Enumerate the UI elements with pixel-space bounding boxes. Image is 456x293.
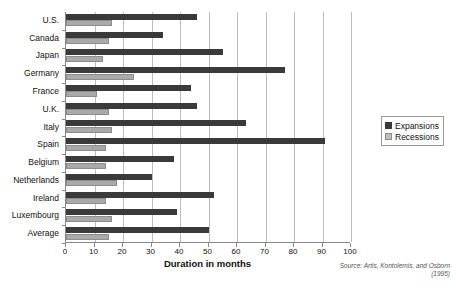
plot-area	[65, 12, 350, 243]
x-tick-label: 30	[146, 247, 155, 256]
x-tick-label: 40	[175, 247, 184, 256]
bar-row	[66, 207, 350, 225]
bar-expansions-belgium	[66, 156, 174, 162]
bar-recessions-canada	[66, 38, 109, 44]
bar-row	[66, 225, 350, 243]
bar-recessions-netherlands	[66, 180, 117, 186]
bar-recessions-us	[66, 20, 112, 26]
bar-recessions-uk	[66, 109, 109, 115]
category-tick	[62, 119, 65, 120]
category-label: Germany	[24, 69, 59, 78]
source-note: Source: Artis, Kontolemis, and Osborn (1…	[330, 262, 450, 278]
category-label: France	[33, 87, 59, 96]
bar-row	[66, 101, 350, 119]
legend-label-expansions: Expansions	[395, 121, 439, 131]
x-tick-label: 0	[63, 247, 67, 256]
bar-expansions-luxembourg	[66, 209, 177, 215]
category-label: Ireland	[33, 194, 59, 203]
recessions-swatch-icon	[385, 133, 392, 140]
bar-recessions-average	[66, 234, 109, 240]
bar-row	[66, 190, 350, 208]
category-label: Italy	[43, 123, 59, 132]
category-tick	[62, 207, 65, 208]
x-tick-label: 50	[203, 247, 212, 256]
bar-recessions-germany	[66, 74, 134, 80]
x-axis-title: Duration in months	[65, 258, 350, 269]
bar-recessions-luxembourg	[66, 216, 112, 222]
bar-row	[66, 48, 350, 66]
category-label: Canada	[29, 34, 59, 43]
bar-expansions-netherlands	[66, 174, 152, 180]
category-tick	[62, 136, 65, 137]
category-label: Netherlands	[13, 176, 59, 185]
category-tick	[62, 65, 65, 66]
bar-expansions-canada	[66, 32, 163, 38]
bar-chart: U.S.CanadaJapanGermanyFranceU.K.ItalySpa…	[0, 0, 456, 293]
bar-expansions-us	[66, 14, 197, 20]
category-label: Luxembourg	[12, 211, 59, 220]
category-label: Belgium	[28, 158, 59, 167]
bar-expansions-japan	[66, 49, 223, 55]
category-tick	[62, 172, 65, 173]
bar-expansions-spain	[66, 138, 325, 144]
category-label: Spain	[37, 140, 59, 149]
bar-row	[66, 154, 350, 172]
x-axis-ticks: 0102030405060708090100	[0, 243, 456, 255]
bar-expansions-uk	[66, 103, 197, 109]
category-label: U.K.	[42, 105, 59, 114]
category-tick	[62, 154, 65, 155]
bar-expansions-ireland	[66, 192, 214, 198]
category-tick	[62, 243, 65, 244]
bar-recessions-ireland	[66, 198, 106, 204]
x-tick-label: 60	[232, 247, 241, 256]
bar-recessions-spain	[66, 145, 106, 151]
category-label: Japan	[36, 51, 59, 60]
x-tick-label: 80	[289, 247, 298, 256]
x-tick-label: 10	[89, 247, 98, 256]
bar-expansions-germany	[66, 67, 285, 73]
expansions-swatch-icon	[385, 122, 392, 129]
x-tick-label: 100	[343, 247, 356, 256]
bar-row	[66, 172, 350, 190]
bar-expansions-italy	[66, 120, 246, 126]
category-label: U.S.	[42, 16, 59, 25]
x-tick-label: 90	[317, 247, 326, 256]
bar-recessions-belgium	[66, 163, 106, 169]
bar-row	[66, 12, 350, 30]
bar-row	[66, 83, 350, 101]
category-tick	[62, 83, 65, 84]
gridline	[351, 12, 352, 242]
chart-legend: Expansions Recessions	[381, 116, 444, 146]
bar-row	[66, 30, 350, 48]
bar-expansions-average	[66, 227, 209, 233]
x-tick-label: 20	[118, 247, 127, 256]
category-tick	[62, 225, 65, 226]
bar-rows	[66, 12, 350, 242]
category-axis-labels: U.S.CanadaJapanGermanyFranceU.K.ItalySpa…	[0, 12, 63, 243]
bar-row	[66, 65, 350, 83]
category-label: Average	[27, 229, 59, 238]
bar-expansions-france	[66, 85, 191, 91]
bar-recessions-japan	[66, 56, 103, 62]
legend-item-expansions: Expansions	[385, 120, 439, 131]
bar-row	[66, 119, 350, 137]
legend-label-recessions: Recessions	[395, 132, 439, 142]
category-tick	[62, 101, 65, 102]
bar-row	[66, 136, 350, 154]
bar-recessions-italy	[66, 127, 112, 133]
legend-item-recessions: Recessions	[385, 131, 439, 142]
category-tick	[62, 48, 65, 49]
bar-recessions-france	[66, 91, 97, 97]
x-tick-label: 70	[260, 247, 269, 256]
category-tick	[62, 30, 65, 31]
category-tick	[62, 190, 65, 191]
